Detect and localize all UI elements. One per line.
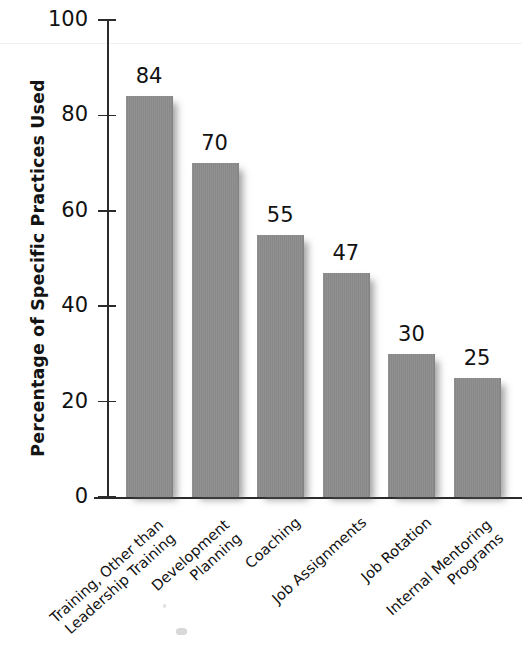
y-axis-tick <box>98 115 116 117</box>
y-axis-tick-label: 60 <box>24 200 88 221</box>
bar <box>454 378 501 497</box>
y-axis-tick-label: 0 <box>24 486 88 507</box>
y-axis-tick-label: 40 <box>24 295 88 316</box>
bar <box>192 163 239 497</box>
plot-area: 020406080100 847055473025 Training, Othe… <box>0 0 522 652</box>
bar-chart-figure: Percentage of Specific Practices Used 02… <box>0 0 522 652</box>
y-axis-tick <box>98 401 116 403</box>
bar-value-label: 84 <box>104 66 194 87</box>
bar-value-label: 30 <box>366 324 456 345</box>
y-axis-tick-label: 100 <box>24 9 88 30</box>
y-axis-tick-label: 20 <box>24 391 88 412</box>
y-axis-tick <box>98 210 116 212</box>
bar-value-label: 25 <box>432 348 522 369</box>
y-axis-tick <box>98 305 116 307</box>
y-axis-tick <box>98 496 116 498</box>
bar-value-label: 47 <box>301 243 391 264</box>
bar-value-label: 70 <box>170 133 260 154</box>
y-axis-line <box>107 20 109 498</box>
y-axis-tick <box>98 19 116 21</box>
y-axis-tick-label: 80 <box>24 104 88 125</box>
bar <box>388 354 435 497</box>
bar <box>257 235 304 497</box>
bar <box>323 273 370 497</box>
bar <box>126 96 173 497</box>
bar-value-label: 55 <box>235 205 325 226</box>
x-axis-line <box>94 497 522 499</box>
